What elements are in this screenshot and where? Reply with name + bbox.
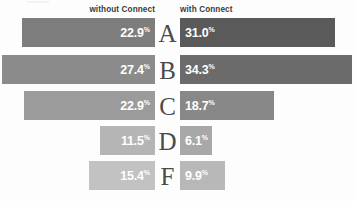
percent-sign: % [202,169,208,176]
chart-row: 22.9%31.0%A [0,18,357,47]
bar-value-label: 18.7% [185,99,215,113]
chart-row: 11.5%6.1%D [0,126,357,155]
series-label-without-connect: without Connect [0,5,155,15]
percent-sign: % [144,169,150,176]
bar-with-connect[interactable]: 9.9% [180,161,225,190]
bar-value-label: 22.9% [120,26,150,40]
chart-row: 22.9%18.7%C [0,91,357,120]
grade-letter-a: A [155,20,180,45]
bar-without-connect[interactable]: 22.9% [22,18,155,47]
bar-value-label: 34.3% [185,63,215,77]
percent-sign: % [202,134,208,141]
chart-row: 27.4%34.3%B [0,55,357,84]
tornado-bar-chart: without Connect with Connect 22.9%31.0%A… [0,0,357,201]
bar-value-label: 27.4% [120,63,150,77]
grade-letter-d: D [155,128,180,153]
percent-sign: % [144,99,150,106]
bar-with-connect[interactable]: 34.3% [180,55,352,84]
percent-sign: % [209,26,215,33]
bar-without-connect[interactable]: 22.9% [24,91,155,120]
percent-sign: % [209,99,215,106]
bar-value-label: 11.5% [121,134,150,148]
bar-without-connect[interactable]: 11.5% [100,126,155,155]
grade-letter-c: C [155,93,180,118]
bar-value-label: 6.1% [185,134,208,148]
chart-row: 15.4%9.9%F [0,161,357,190]
bar-without-connect[interactable]: 15.4% [89,161,155,190]
top-crop-artifact [27,1,49,3]
bar-with-connect[interactable]: 31.0% [180,18,335,47]
percent-sign: % [209,63,215,70]
bar-without-connect[interactable]: 27.4% [2,55,155,84]
bar-with-connect[interactable]: 18.7% [180,91,274,120]
bar-value-label: 9.9% [185,169,208,183]
series-label-with-connect: with Connect [180,5,233,15]
grade-letter-f: F [155,163,180,188]
bar-value-label: 22.9% [120,99,150,113]
percent-sign: % [144,26,150,33]
grade-letter-b: B [155,57,180,82]
bar-value-label: 15.4% [120,169,150,183]
percent-sign: % [144,134,150,141]
percent-sign: % [144,63,150,70]
bar-with-connect[interactable]: 6.1% [180,126,212,155]
bar-value-label: 31.0% [185,26,215,40]
